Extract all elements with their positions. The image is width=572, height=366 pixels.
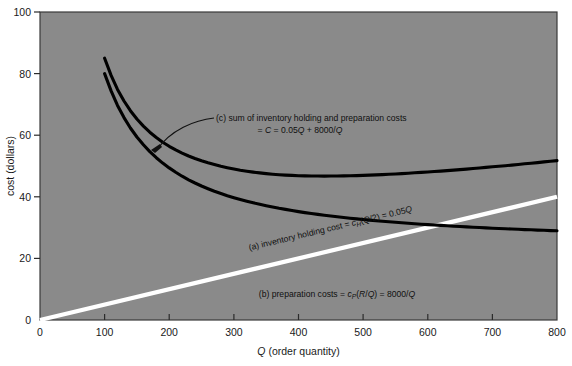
annot-b-var-Q2: Q [408,289,415,299]
y-axis-title: cost (dollars) [4,136,16,196]
y-axis-ticks [34,12,40,258]
annot-c-suffix: + 8000/ [304,125,336,135]
annot-c-eq-prefix: = [258,125,265,135]
annot-c-mid: = 0.05 [271,125,298,135]
x-axis-title-rest: (order quantity) [266,345,340,357]
y-axis-tick-labels: 100 80 60 40 20 0 [13,6,31,326]
x-tick-label-800: 800 [548,326,566,338]
annotation-c-line1: (c) sum of inventory holding and prepara… [216,113,407,123]
y-tick-label-80: 80 [19,68,31,80]
figure-container: 100 80 60 40 20 0 cost (dollars) 0 100 2… [0,0,572,366]
x-tick-label-200: 200 [160,326,178,338]
cost-vs-order-quantity-chart: 100 80 60 40 20 0 cost (dollars) 0 100 2… [0,0,572,366]
x-tick-label-0: 0 [37,326,43,338]
plot-area-background [40,12,557,320]
x-axis-tick-labels: 0 100 200 300 400 500 600 700 800 [37,326,566,338]
y-tick-label-20: 20 [19,252,31,264]
y-tick-label-100: 100 [13,6,31,18]
annot-b-mid3: ) = 8000/ [374,289,409,299]
x-tick-label-100: 100 [96,326,114,338]
annotation-b-text: (b) preparation costs = cP(R/Q) = 8000/Q [259,289,416,300]
y-tick-label-0: 0 [25,314,31,326]
x-tick-label-600: 600 [419,326,437,338]
y-tick-label-40: 40 [19,191,31,203]
x-axis-title: Q (order quantity) [257,345,339,357]
x-tick-label-400: 400 [290,326,308,338]
x-tick-label-700: 700 [484,326,502,338]
y-tick-label-60: 60 [19,129,31,141]
x-tick-label-300: 300 [225,326,243,338]
annot-b-prefix: (b) preparation costs = [259,289,348,299]
annot-c-var-Q2: Q [336,125,343,135]
x-axis-title-variable: Q [257,345,265,357]
x-tick-label-500: 500 [354,326,372,338]
annotation-c-line2: = C = 0.05Q + 8000/Q [258,125,343,135]
